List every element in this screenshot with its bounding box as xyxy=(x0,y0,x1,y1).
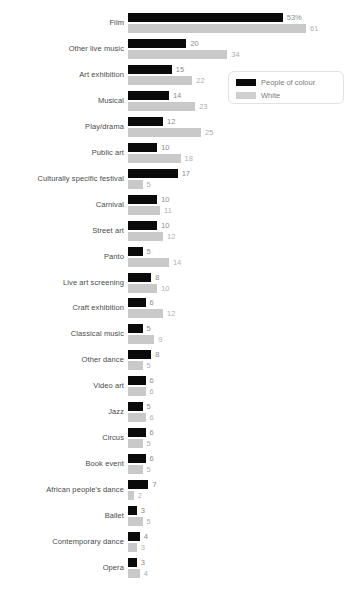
bar-white[interactable] xyxy=(128,180,143,189)
category-label: Other live music xyxy=(0,44,124,54)
bar-poc[interactable] xyxy=(128,506,137,515)
category-label: Public art xyxy=(0,148,124,158)
bar-value-label: 5 xyxy=(147,402,151,411)
bar-white[interactable] xyxy=(128,465,143,474)
legend-label-poc: People of colour xyxy=(261,78,315,87)
bar-white[interactable] xyxy=(128,206,160,215)
bar-poc[interactable] xyxy=(128,13,283,22)
bar-poc[interactable] xyxy=(128,324,143,333)
category-label: Carnival xyxy=(0,200,124,210)
bar-value-label: 10 xyxy=(161,143,169,152)
bar-poc[interactable] xyxy=(128,117,163,126)
chart-row: Play/drama1225 xyxy=(0,117,355,143)
bar-white[interactable] xyxy=(128,232,163,241)
category-label: Panto xyxy=(0,252,124,262)
bar-poc[interactable] xyxy=(128,428,146,437)
bar-value-label: 5 xyxy=(147,361,151,370)
bar-white[interactable] xyxy=(128,102,195,111)
legend-label-white: White xyxy=(261,91,280,100)
bar-poc[interactable] xyxy=(128,298,146,307)
bar-white[interactable] xyxy=(128,491,134,500)
chart-row: Ballet35 xyxy=(0,506,355,532)
bar-poc[interactable] xyxy=(128,454,146,463)
bar-poc[interactable] xyxy=(128,169,178,178)
bar-white[interactable] xyxy=(128,128,201,137)
bar-value-label: 14 xyxy=(173,91,181,100)
chart-row: Panto514 xyxy=(0,247,355,273)
bar-value-label: 6 xyxy=(150,428,154,437)
bar-value-label: 5 xyxy=(147,439,151,448)
bar-poc[interactable] xyxy=(128,273,151,282)
bar-poc[interactable] xyxy=(128,480,148,489)
bar-poc[interactable] xyxy=(128,65,172,74)
bar-poc[interactable] xyxy=(128,376,146,385)
bar-poc[interactable] xyxy=(128,402,143,411)
chart-row: Jazz56 xyxy=(0,402,355,428)
bar-white[interactable] xyxy=(128,387,146,396)
bar-value-label: 8 xyxy=(155,350,159,359)
bar-value-label: 5 xyxy=(147,324,151,333)
chart-row: Carnival1011 xyxy=(0,195,355,221)
bar-value-label: 4 xyxy=(144,532,148,541)
bar-value-label: 6 xyxy=(150,413,154,422)
bar-white[interactable] xyxy=(128,413,146,422)
category-label: Ballet xyxy=(0,511,124,521)
category-label: Circus xyxy=(0,433,124,443)
bar-white[interactable] xyxy=(128,24,306,33)
chart-row: Other live music2034 xyxy=(0,39,355,65)
bar-value-label: 5 xyxy=(147,247,151,256)
bar-white[interactable] xyxy=(128,76,192,85)
legend-item-people-of-colour[interactable]: People of colour xyxy=(236,77,337,88)
legend-swatch-poc-icon xyxy=(236,79,256,86)
chart-row: Live art screening810 xyxy=(0,273,355,299)
bar-value-label: 10 xyxy=(161,284,169,293)
chart-row: African people's dance72 xyxy=(0,480,355,506)
bar-value-label: 6 xyxy=(150,387,154,396)
bar-white[interactable] xyxy=(128,439,143,448)
bar-poc[interactable] xyxy=(128,532,140,541)
bar-value-label: 15 xyxy=(176,65,184,74)
bar-value-label: 8 xyxy=(155,273,159,282)
bar-value-label: 25 xyxy=(205,128,213,137)
category-label: Video art xyxy=(0,381,124,391)
bar-value-label: 34 xyxy=(231,50,239,59)
bar-white[interactable] xyxy=(128,50,227,59)
bar-white[interactable] xyxy=(128,258,169,267)
bar-value-label: 3 xyxy=(141,543,145,552)
chart-row: Opera34 xyxy=(0,558,355,584)
bar-white[interactable] xyxy=(128,335,154,344)
category-label: Art exhibition xyxy=(0,70,124,80)
bar-poc[interactable] xyxy=(128,143,157,152)
bar-white[interactable] xyxy=(128,569,140,578)
category-label: Musical xyxy=(0,96,124,106)
bar-white[interactable] xyxy=(128,517,143,526)
bar-white[interactable] xyxy=(128,154,181,163)
chart-row: Craft exhibition612 xyxy=(0,298,355,324)
category-label: Jazz xyxy=(0,407,124,417)
legend-swatch-white-icon xyxy=(236,92,256,99)
category-label: Live art screening xyxy=(0,278,124,288)
bar-poc[interactable] xyxy=(128,247,143,256)
bar-poc[interactable] xyxy=(128,39,186,48)
bar-poc[interactable] xyxy=(128,91,169,100)
bar-white[interactable] xyxy=(128,543,137,552)
bar-white[interactable] xyxy=(128,309,163,318)
bar-value-label: 18 xyxy=(185,154,193,163)
bar-value-label: 14 xyxy=(173,258,181,267)
bar-poc[interactable] xyxy=(128,558,137,567)
bar-white[interactable] xyxy=(128,361,143,370)
category-label: Other dance xyxy=(0,355,124,365)
category-label: Film xyxy=(0,18,124,28)
chart-row: Classical music59 xyxy=(0,324,355,350)
category-label: Culturally specific festival xyxy=(0,174,124,184)
category-label: Street art xyxy=(0,226,124,236)
bar-value-label: 6 xyxy=(150,454,154,463)
bar-poc[interactable] xyxy=(128,350,151,359)
bar-value-label: 20 xyxy=(190,39,198,48)
bar-poc[interactable] xyxy=(128,195,157,204)
bar-white[interactable] xyxy=(128,284,157,293)
bar-value-label: 10 xyxy=(161,195,169,204)
bar-poc[interactable] xyxy=(128,221,157,230)
legend-item-white[interactable]: White xyxy=(236,90,337,101)
bar-value-label: 9 xyxy=(158,335,162,344)
